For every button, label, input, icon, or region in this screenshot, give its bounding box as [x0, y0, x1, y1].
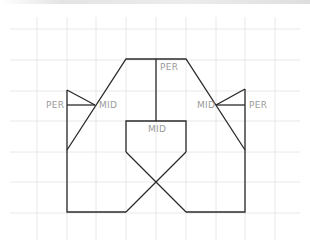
per-label-right: PER	[249, 100, 267, 110]
left-triangle-diagonal[interactable]	[67, 90, 95, 105]
per-label-left: PER	[46, 100, 64, 110]
drawing-canvas[interactable]: PER PER PER MID MID MID	[0, 0, 310, 243]
per-label-top: PER	[160, 62, 178, 72]
mid-label-right: MID	[197, 100, 215, 110]
mid-label-left: MID	[99, 100, 117, 110]
mid-label-center: MID	[148, 124, 166, 134]
right-side-outline[interactable]	[186, 89, 245, 212]
